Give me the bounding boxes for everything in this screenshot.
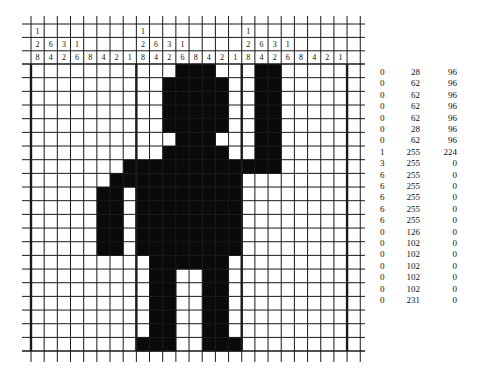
filled-pixel — [268, 146, 282, 160]
filled-pixel — [215, 296, 229, 310]
filled-pixel — [268, 64, 282, 78]
filled-pixel — [189, 255, 203, 269]
filled-pixel — [163, 283, 177, 297]
byte-values-row: 1255224 — [372, 146, 472, 158]
byte-value-3: 0 — [428, 294, 457, 306]
byte-values-row: 01020 — [372, 260, 472, 272]
byte-value-1: 0 — [380, 260, 390, 272]
byte-value-3: 0 — [428, 260, 457, 272]
filled-pixel — [229, 173, 243, 187]
byte-value-3: 0 — [428, 237, 457, 249]
byte-value-2: 62 — [392, 112, 420, 124]
filled-pixel — [189, 173, 203, 187]
bit-weight-digit: 8 — [194, 53, 198, 62]
bit-weight-digit: 8 — [36, 53, 40, 62]
filled-pixel — [202, 255, 216, 269]
byte-value-3: 0 — [428, 271, 457, 283]
filled-pixel — [176, 255, 190, 269]
byte-values-row: 02310 — [372, 294, 472, 306]
filled-pixel — [150, 324, 164, 338]
byte-value-2: 62 — [392, 100, 420, 112]
bit-weight-digit: 1 — [286, 40, 290, 49]
byte-values-row: 01020 — [372, 283, 472, 295]
filled-pixel — [215, 228, 229, 242]
filled-pixel — [268, 105, 282, 119]
filled-pixel — [202, 228, 216, 242]
bit-weight-digit: 6 — [180, 53, 184, 62]
filled-pixel — [189, 105, 203, 119]
filled-pixel — [202, 283, 216, 297]
byte-value-1: 6 — [380, 203, 390, 215]
filled-pixel — [97, 187, 111, 201]
filled-pixel — [229, 214, 243, 228]
byte-values-row: 62550 — [372, 180, 472, 192]
filled-pixel — [110, 187, 124, 201]
byte-value-1: 6 — [380, 191, 390, 203]
byte-value-2: 255 — [392, 203, 420, 215]
byte-value-2: 28 — [392, 123, 420, 135]
filled-pixel — [215, 269, 229, 283]
byte-value-3: 96 — [428, 134, 457, 146]
filled-pixel — [123, 173, 137, 187]
filled-pixel — [215, 187, 229, 201]
filled-pixel — [176, 132, 190, 146]
byte-values-row: 62550 — [372, 203, 472, 215]
byte-value-3: 96 — [428, 123, 457, 135]
byte-value-1: 6 — [380, 169, 390, 181]
filled-pixel — [176, 119, 190, 133]
filled-pixel — [136, 160, 150, 174]
bit-weight-digit: 4 — [207, 53, 211, 62]
filled-pixel — [229, 201, 243, 215]
byte-value-3: 96 — [428, 89, 457, 101]
filled-pixel — [176, 160, 190, 174]
filled-pixel — [215, 242, 229, 256]
bit-weight-digit: 1 — [128, 53, 132, 62]
filled-pixel — [110, 242, 124, 256]
byte-value-1: 6 — [380, 180, 390, 192]
byte-values-row: 02896 — [372, 66, 472, 78]
filled-pixel — [176, 146, 190, 160]
byte-values-row: 06296 — [372, 89, 472, 101]
filled-pixel — [150, 173, 164, 187]
filled-pixel — [163, 91, 177, 105]
bit-weight-digit: 1 — [141, 27, 145, 36]
byte-value-1: 0 — [380, 237, 390, 249]
bit-weight-digit: 1 — [180, 40, 184, 49]
filled-pixel — [150, 228, 164, 242]
byte-value-1: 0 — [380, 100, 390, 112]
filled-pixel — [123, 160, 137, 174]
filled-pixel — [189, 146, 203, 160]
filled-pixel — [136, 242, 150, 256]
filled-pixel — [215, 160, 229, 174]
bit-weight-digit: 2 — [36, 40, 40, 49]
filled-pixel — [136, 187, 150, 201]
filled-pixel — [176, 214, 190, 228]
filled-pixel — [110, 201, 124, 215]
filled-pixel — [163, 337, 177, 351]
byte-value-3: 96 — [428, 112, 457, 124]
byte-values-row: 32550 — [372, 157, 472, 169]
byte-value-1: 0 — [380, 283, 390, 295]
filled-pixel — [150, 269, 164, 283]
filled-pixel — [176, 228, 190, 242]
filled-pixel — [215, 214, 229, 228]
byte-value-1: 0 — [380, 112, 390, 124]
filled-pixel — [189, 91, 203, 105]
filled-pixel — [189, 201, 203, 215]
bit-weight-digit: 6 — [49, 40, 53, 49]
filled-pixel — [150, 255, 164, 269]
bit-weight-digit: 2 — [273, 53, 277, 62]
filled-pixel — [215, 324, 229, 338]
filled-pixel — [202, 324, 216, 338]
byte-values-row: 01260 — [372, 226, 472, 238]
filled-pixel — [215, 337, 229, 351]
filled-pixel — [215, 146, 229, 160]
bit-weight-digit: 8 — [246, 53, 250, 62]
byte-values-row: 06296 — [372, 112, 472, 124]
bit-weight-digit: 8 — [141, 53, 145, 62]
byte-value-2: 255 — [392, 191, 420, 203]
byte-value-3: 224 — [428, 146, 457, 158]
byte-value-3: 0 — [428, 157, 457, 169]
byte-values-row: 06296 — [372, 100, 472, 112]
filled-pixel — [176, 64, 190, 78]
